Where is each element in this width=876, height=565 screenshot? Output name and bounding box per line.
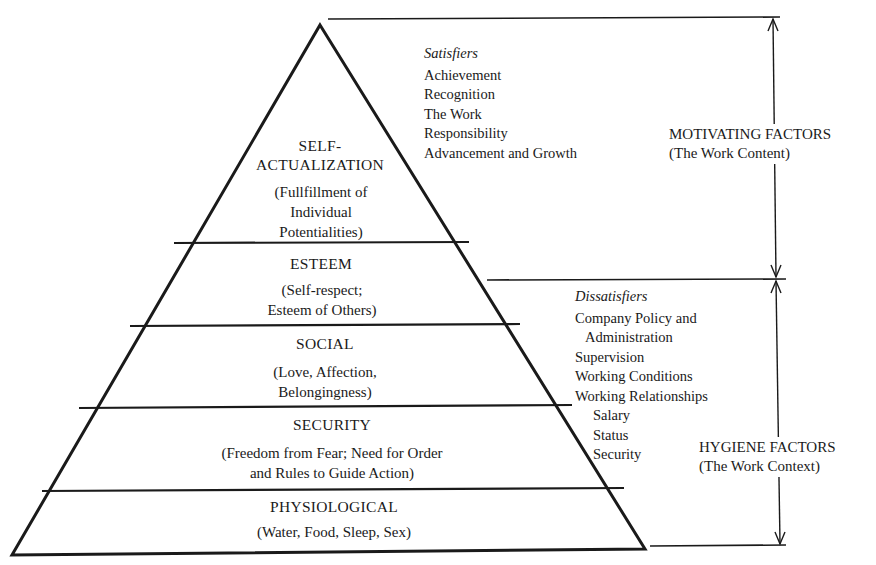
dissatisfier-item: Company Policy and [575, 309, 708, 329]
dissatisfier-item: Salary [575, 406, 708, 426]
satisfier-item: Responsibility [424, 124, 577, 144]
dissatisfier-item: Working Relationships [575, 387, 708, 407]
top-rule [328, 17, 780, 19]
dissatisfier-item: Status [575, 426, 708, 446]
tier-self-actualization-desc: (Fullfillment of Individual Potentialiti… [275, 182, 368, 242]
dissatisfier-item: Administration [575, 328, 708, 348]
satisfier-item: Recognition [424, 85, 577, 105]
dissatisfier-item: Working Conditions [575, 367, 708, 387]
tier-social-title: SOCIAL [296, 334, 354, 353]
dissatisfier-item: Supervision [575, 348, 708, 368]
tier-divider-3 [79, 405, 572, 408]
hygiene-factors-subtitle: (The Work Context) [699, 457, 836, 476]
tier-self-actualization-title: SELF- ACTUALIZATION [256, 136, 384, 174]
hygiene-arrow-shaft [776, 281, 780, 544]
tier-physiological-title: PHYSIOLOGICAL [270, 497, 398, 516]
bottom-rule [650, 545, 786, 546]
motivating-factors-label: MOTIVATING FACTORS (The Work Content) [669, 124, 831, 164]
satisfier-item: The Work [424, 105, 577, 125]
tier-esteem-title: ESTEEM [290, 254, 352, 273]
middle-rule [487, 279, 786, 280]
tier-social-desc: (Love, Affection, Belongingness) [273, 362, 376, 402]
tier-divider-4 [42, 488, 624, 491]
satisfiers-list: Satisfiers Achievement Recognition The W… [424, 44, 577, 163]
tier-esteem-desc: (Self-respect; Esteem of Others) [267, 280, 376, 320]
hygiene-factors-title: HYGIENE FACTORS [699, 438, 836, 457]
dissatisfiers-list: Dissatisfiers Company Policy and Adminis… [575, 287, 708, 465]
tier-divider-2 [130, 324, 520, 326]
hygiene-factors-label: HYGIENE FACTORS (The Work Context) [699, 437, 836, 477]
tier-divider-1 [174, 242, 469, 243]
motivating-factors-subtitle: (The Work Content) [669, 144, 831, 163]
tier-physiological-desc: (Water, Food, Sleep, Sex) [257, 523, 411, 542]
satisfier-item: Advancement and Growth [424, 144, 577, 164]
satisfier-item: Achievement [424, 66, 577, 86]
tier-security-title: SECURITY [293, 415, 371, 434]
motivating-factors-title: MOTIVATING FACTORS [669, 125, 831, 144]
satisfiers-heading: Satisfiers [424, 44, 577, 64]
dissatisfiers-heading: Dissatisfiers [575, 287, 708, 307]
tier-security-desc: (Freedom from Fear; Need for Order and R… [221, 443, 442, 483]
dissatisfier-item: Security [575, 445, 708, 465]
